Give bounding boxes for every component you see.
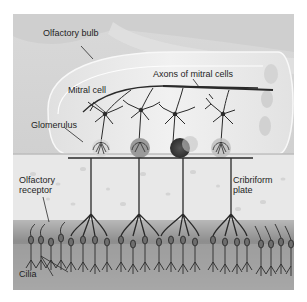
label-mitral-cell: Mitral cell (68, 85, 106, 95)
label-cribriform-line1: Cribriform (233, 175, 273, 185)
label-cilia: Cilia (19, 269, 37, 279)
olfactory-bulb (48, 52, 293, 154)
label-glomerulus: Glomerulus (31, 120, 77, 130)
label-axons-of-mitral-cells: Axons of mitral cells (153, 69, 233, 79)
label-cribriform-line2: plate (233, 185, 253, 195)
olfactory-diagram: Olfactory bulb Axons of mitral cells Mit… (13, 14, 294, 290)
diagram-artwork (13, 14, 294, 290)
label-olfactory-receptor-line1: Olfactory (19, 175, 55, 185)
label-olfactory-bulb: Olfactory bulb (43, 28, 99, 38)
label-olfactory-receptor-line2: receptor (19, 185, 52, 195)
